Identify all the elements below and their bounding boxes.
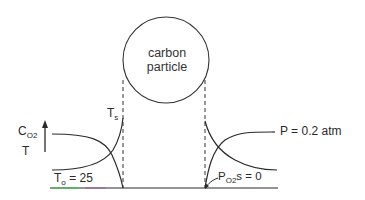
ambient-temp-label: To = 25 — [54, 171, 93, 187]
particle-label-line1: carbon — [125, 46, 209, 60]
surface-pressure-value: = 0 — [242, 170, 262, 182]
co2-axis-label: CO2 — [18, 124, 37, 140]
surface-pressure-label: PO2s = 0 — [218, 170, 262, 185]
bulk-pressure-label: P = 0.2 atm — [280, 124, 341, 138]
left-temperature-curve — [52, 118, 123, 170]
particle-label: carbon particle — [125, 46, 209, 74]
axis-arrow-head-icon — [42, 120, 48, 128]
surface-pressure-sub: O2 — [226, 176, 237, 185]
diagram-canvas — [0, 0, 365, 200]
surface-temp-label: Ts — [107, 106, 118, 122]
co2-axis-c: C — [18, 124, 27, 138]
right-temperature-curve — [205, 121, 277, 170]
ambient-temp-value: = 25 — [66, 171, 93, 185]
t-axis-label: T — [22, 144, 29, 158]
surface-temp-sub: s — [114, 113, 118, 122]
co2-axis-sub: O2 — [27, 131, 38, 140]
particle-label-line2: particle — [125, 60, 209, 74]
surface-pressure-p: P — [218, 170, 226, 182]
